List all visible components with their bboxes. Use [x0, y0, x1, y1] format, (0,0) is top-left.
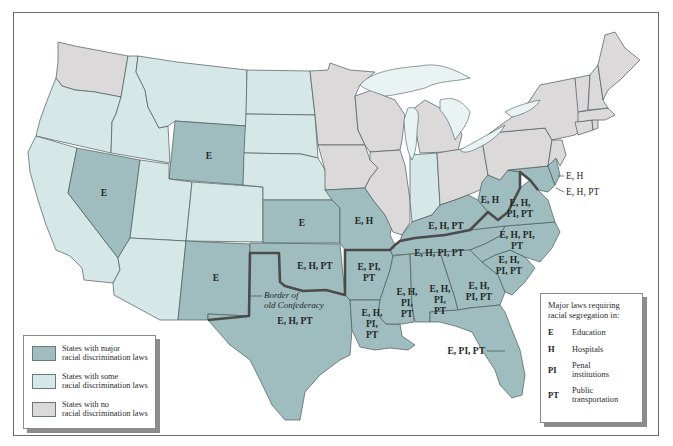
- label-louisiana-1: E, H,: [362, 308, 383, 318]
- label-oklahoma: E, H, PT: [297, 261, 333, 271]
- label-louisiana-2: PI,: [366, 319, 379, 329]
- label-florida: E, PI, PT: [448, 346, 486, 356]
- label-west-virginia: E, H: [481, 195, 500, 205]
- law-legend-title: Major laws requiring racial segregation …: [548, 301, 636, 320]
- law-code: PT: [548, 390, 572, 400]
- state-south-dakota: [244, 114, 318, 158]
- label-kansas: E: [299, 218, 305, 228]
- confederacy-label-line1: Border of: [264, 290, 300, 300]
- label-arkansas-2: PT: [363, 273, 376, 283]
- label-mississippi-3: PT: [401, 309, 414, 319]
- label-arkansas-1: E, PI,: [358, 262, 382, 272]
- law-code: PI: [548, 365, 572, 375]
- legend-label-none: States with no racial discrimination law…: [62, 400, 148, 418]
- label-north-carolina-2: PT: [511, 241, 524, 251]
- law-description: Education: [572, 328, 606, 337]
- label-mississippi-2: PI,: [401, 298, 414, 308]
- state-colorado: [186, 182, 263, 242]
- legend-swatch-some: [32, 374, 56, 389]
- label-mississippi-1: E, H,: [397, 287, 418, 297]
- label-alabama-2: PI,: [434, 295, 447, 305]
- law-description: Public transportation: [572, 386, 618, 404]
- state-rhode-island: [592, 119, 598, 130]
- legend-item-none: States with no racial discrimination law…: [32, 400, 149, 418]
- state-connecticut: [575, 120, 593, 135]
- label-south-carolina-2: PI, PT: [496, 266, 523, 276]
- label-wyoming: E: [206, 151, 212, 161]
- category-legend: States with major racial discrimination …: [23, 335, 156, 429]
- law-code: E: [548, 327, 572, 337]
- label-delaware: E, H: [566, 171, 584, 181]
- label-new-mexico: E: [213, 273, 219, 283]
- label-missouri: E, H: [355, 216, 374, 226]
- law-description: Hospitals: [572, 345, 603, 354]
- legend-item-some: States with some racial discrimination l…: [32, 372, 149, 390]
- law-legend-item-h: H Hospitals: [548, 344, 636, 354]
- state-arizona: [113, 238, 186, 320]
- law-legend-item-pi: PI Penal institutions: [548, 361, 636, 379]
- label-texas: E, H, PT: [277, 316, 313, 326]
- state-vermont: [575, 75, 590, 112]
- label-alabama-1: E, H,: [430, 284, 451, 294]
- legend-swatch-none: [32, 402, 56, 417]
- law-legend-item-e: E Education: [548, 327, 636, 337]
- lake-superior: [360, 65, 470, 96]
- label-north-carolina-1: E, H, PI,: [499, 230, 535, 240]
- law-codes-legend: Major laws requiring racial segregation …: [540, 293, 643, 423]
- label-georgia-1: E, H,: [469, 281, 490, 291]
- label-louisiana-3: PT: [366, 330, 379, 340]
- state-north-dakota: [246, 70, 315, 115]
- legend-label-major: States with major racial discrimination …: [62, 344, 148, 362]
- maryland-leader: [556, 188, 564, 192]
- legend-label-some: States with some racial discrimination l…: [62, 372, 148, 390]
- legend-swatch-major: [32, 346, 56, 361]
- label-south-carolina-1: E, H,: [499, 255, 520, 265]
- label-virginia-1: E, H,: [510, 198, 531, 208]
- confederacy-label-line2: old Confederacy: [264, 300, 324, 310]
- state-maine: [598, 32, 640, 100]
- label-nevada: E: [101, 188, 107, 198]
- label-virginia-2: PI, PT: [507, 209, 534, 219]
- label-alabama-3: PT: [434, 306, 447, 316]
- law-code: H: [548, 344, 572, 354]
- label-georgia-2: PI, PT: [466, 292, 493, 302]
- law-legend-item-pt: PT Public transportation: [548, 386, 636, 404]
- label-kentucky: E, H, PT: [428, 221, 464, 231]
- label-tennessee: E, H, PI, PT: [414, 248, 464, 258]
- legend-item-major: States with major racial discrimination …: [32, 344, 149, 362]
- label-maryland: E, H, PT: [566, 187, 599, 197]
- law-description: Penal institutions: [572, 361, 609, 379]
- lake-michigan: [404, 108, 418, 160]
